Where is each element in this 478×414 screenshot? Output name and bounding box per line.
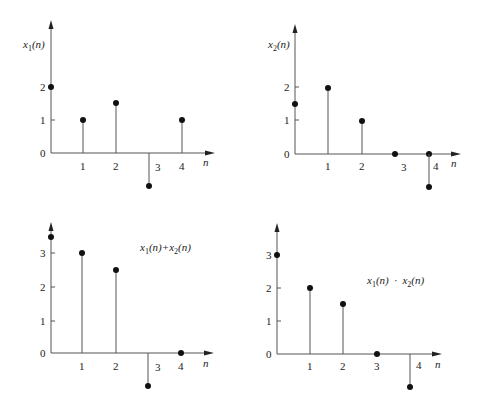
x-tick-label: 1 bbox=[79, 360, 85, 372]
x-axis-arrow-icon bbox=[204, 351, 214, 356]
x-tick-label: 3 bbox=[155, 361, 161, 373]
y-axis-label: x2(n) bbox=[267, 38, 290, 53]
y-tick-label: 3 bbox=[266, 249, 272, 261]
plot-annotation: x1(n)+x2(n) bbox=[139, 241, 191, 256]
data-point bbox=[48, 234, 54, 240]
data-point bbox=[340, 301, 346, 307]
data-point bbox=[179, 117, 185, 123]
y-tick-label: 0 bbox=[40, 147, 46, 159]
data-point bbox=[146, 183, 152, 189]
data-point bbox=[374, 351, 380, 357]
x-tick-label: 4 bbox=[178, 360, 184, 372]
data-point bbox=[113, 100, 119, 106]
y-axis-label: x1(n) bbox=[22, 38, 45, 53]
x-tick-label: 4 bbox=[433, 160, 439, 172]
y-tick-label: 1 bbox=[266, 315, 272, 327]
data-point bbox=[274, 252, 280, 258]
y-tick-label: 1 bbox=[40, 315, 46, 327]
data-point bbox=[426, 184, 432, 190]
data-point bbox=[359, 118, 365, 124]
x-axis-arrow-icon bbox=[205, 151, 215, 156]
stem-plots-figure: 1 2 0 1 2 3 4 n x1(n) 0 1 2 1 2 3 4 n x2… bbox=[0, 0, 478, 414]
x-axis-label: n bbox=[451, 157, 457, 169]
data-point bbox=[407, 384, 413, 390]
y-axis-arrow-icon bbox=[49, 20, 54, 29]
x-tick-label: 1 bbox=[325, 160, 331, 172]
x-tick-label: 3 bbox=[155, 161, 161, 173]
x-tick-label: 1 bbox=[80, 160, 86, 172]
data-point bbox=[145, 383, 151, 389]
x-tick-label: 2 bbox=[359, 160, 365, 172]
x-axis-label: n bbox=[203, 357, 209, 369]
data-point bbox=[325, 85, 331, 91]
x-axis-label: n bbox=[435, 358, 441, 370]
y-tick-label: 0 bbox=[266, 348, 272, 360]
y-tick-label: 2 bbox=[284, 81, 290, 93]
y-tick-label: 2 bbox=[266, 282, 272, 294]
x-tick-label: 4 bbox=[179, 160, 185, 172]
x-tick-label: 2 bbox=[113, 360, 119, 372]
panel-sum: 0 1 2 3 1 2 3 4 n x1(n)+x2(n) bbox=[40, 222, 214, 389]
data-point bbox=[113, 267, 119, 273]
data-point bbox=[178, 350, 184, 356]
data-point bbox=[48, 84, 54, 90]
y-axis-arrow-icon bbox=[275, 223, 280, 232]
data-point bbox=[392, 151, 398, 157]
x-axis-label: n bbox=[203, 156, 209, 168]
panel-product: 0 1 2 3 1 2 3 4 n x1(n) · x2(n) bbox=[266, 223, 442, 390]
x-tick-label: 2 bbox=[113, 160, 119, 172]
x-axis-arrow-icon bbox=[432, 352, 442, 357]
y-tick-label: 2 bbox=[40, 281, 46, 293]
y-axis-arrow-icon bbox=[49, 222, 54, 231]
y-tick-label: 1 bbox=[40, 114, 46, 126]
x-tick-label: 1 bbox=[307, 360, 313, 372]
y-tick-label: 0 bbox=[40, 347, 46, 359]
panel-x1: 1 2 0 1 2 3 4 n x1(n) bbox=[22, 20, 215, 189]
y-axis-arrow-icon bbox=[293, 24, 298, 33]
y-tick-label: 3 bbox=[40, 247, 46, 259]
y-tick-label: 1 bbox=[284, 114, 290, 126]
plot-annotation: x1(n) · x2(n) bbox=[366, 274, 425, 289]
data-point bbox=[292, 101, 298, 107]
x-tick-label: 3 bbox=[401, 161, 407, 173]
x-axis-arrow-icon bbox=[451, 152, 461, 157]
x-tick-label: 3 bbox=[374, 360, 380, 372]
y-tick-label: 2 bbox=[40, 81, 46, 93]
data-point bbox=[80, 117, 86, 123]
panel-x2: 0 1 2 1 2 3 4 n x2(n) bbox=[267, 24, 461, 190]
data-point bbox=[307, 285, 313, 291]
y-tick-label: 0 bbox=[284, 148, 290, 160]
x-tick-label: 4 bbox=[416, 359, 422, 371]
data-point bbox=[79, 250, 85, 256]
x-tick-label: 2 bbox=[340, 360, 346, 372]
